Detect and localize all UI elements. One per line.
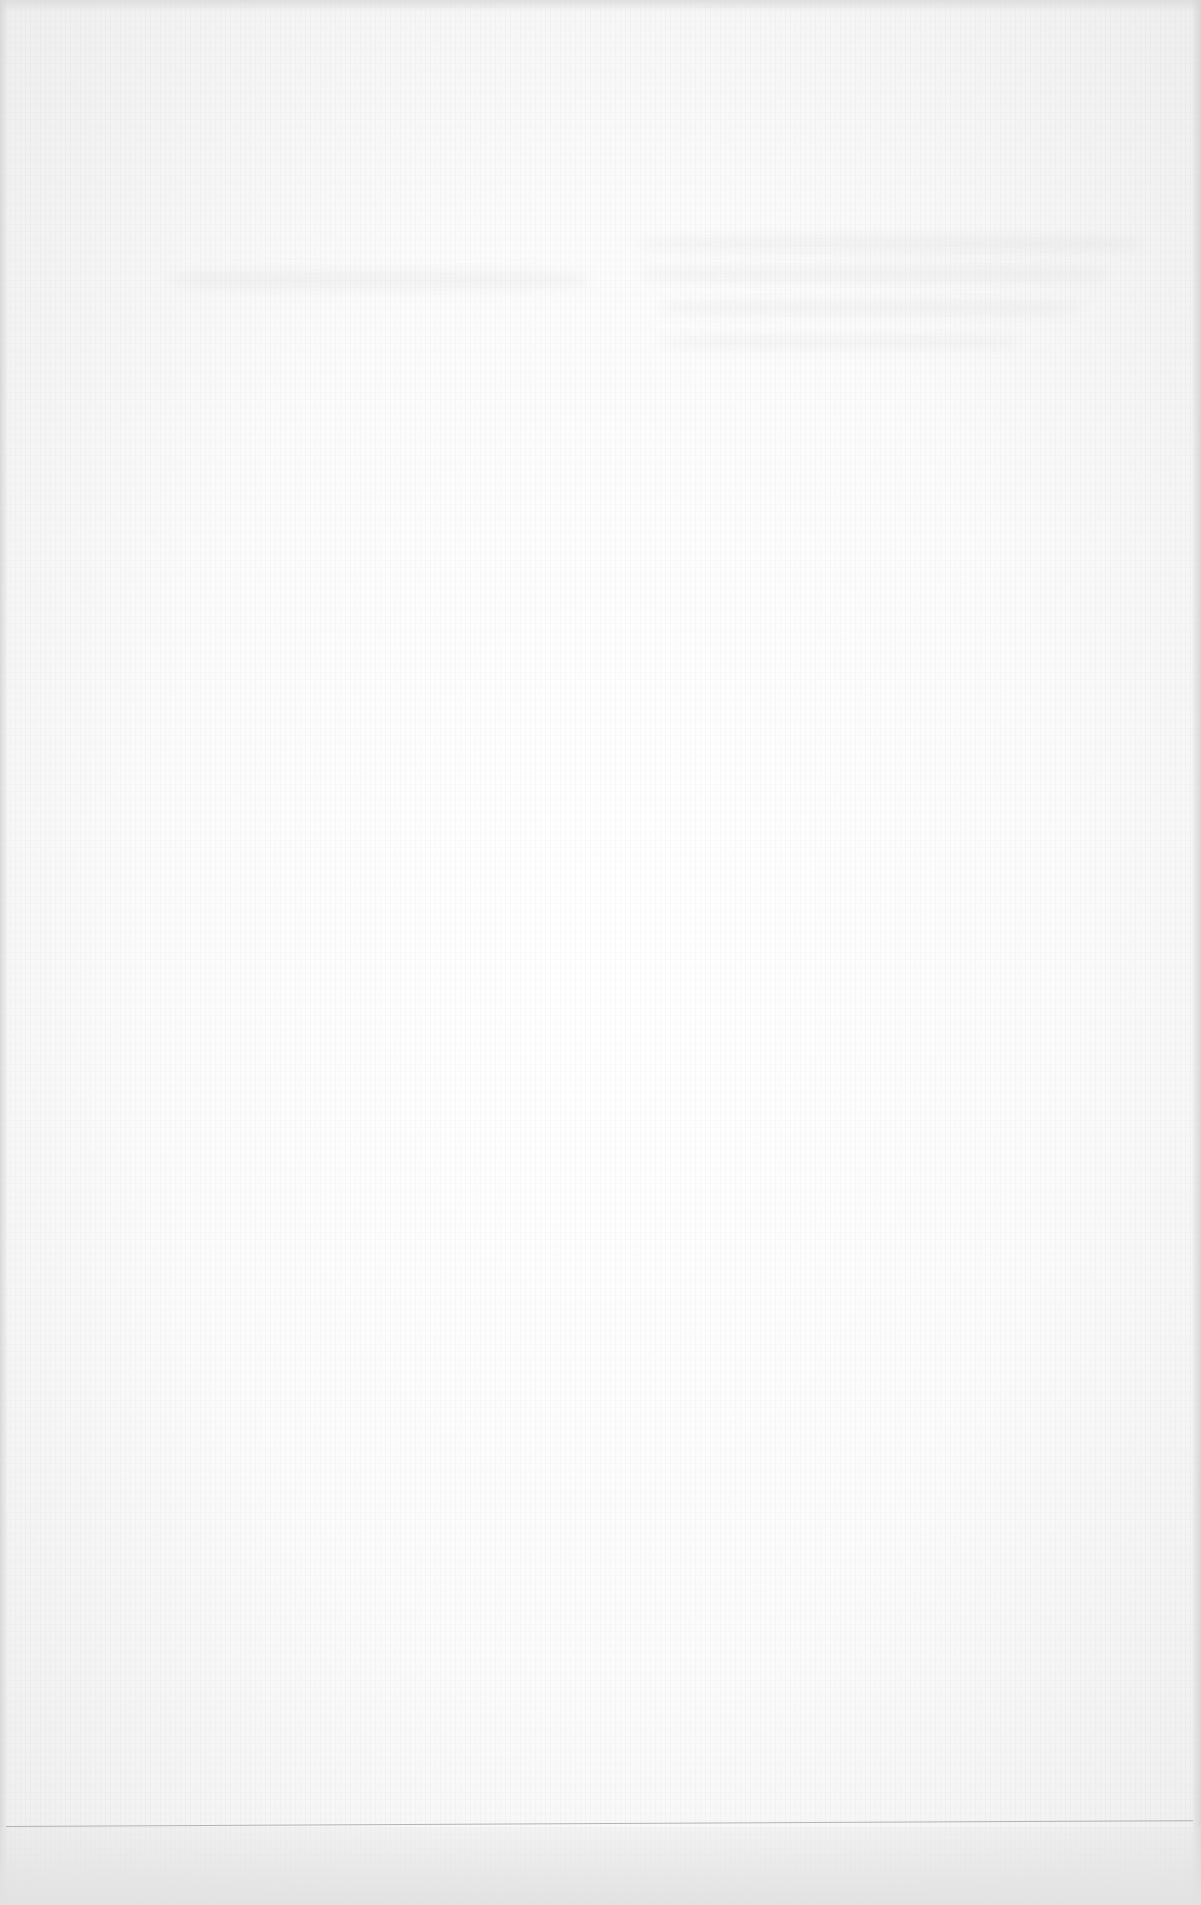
page-bottom-margin-band xyxy=(0,1827,1201,1905)
scanned-blank-page xyxy=(0,0,1201,1905)
page-top-edge-shadow xyxy=(0,0,1201,12)
page-left-edge-shadow xyxy=(0,0,8,1905)
paper-texture xyxy=(0,0,1201,1905)
horizontal-rule xyxy=(6,1820,1193,1827)
page-right-edge-shadow xyxy=(1191,0,1201,1905)
show-through-mark xyxy=(660,300,1080,316)
show-through-mark xyxy=(640,235,1140,253)
show-through-mark xyxy=(170,270,590,290)
show-through-mark xyxy=(660,335,1020,349)
show-through-mark xyxy=(640,265,1110,283)
